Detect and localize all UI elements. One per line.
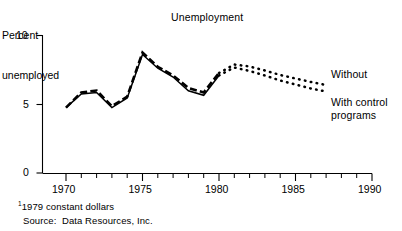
x-tick-label-1970: 1970 bbox=[52, 183, 75, 195]
footnote-body: 1979 constant dollars bbox=[22, 201, 114, 212]
unemployment-chart-figure: Percent unemployed Unemployment bbox=[0, 0, 402, 231]
y-tick-label-10: 10 bbox=[16, 29, 28, 41]
without-solid-path bbox=[66, 53, 219, 108]
series-without-historical bbox=[66, 53, 219, 108]
series-label-without: Without bbox=[331, 68, 367, 80]
footnote: 11979 constant dollars bbox=[18, 200, 114, 212]
x-tick-label-1990: 1990 bbox=[358, 183, 381, 195]
series-with-control-projection bbox=[219, 68, 326, 92]
series-label-with-control-line-1: With control bbox=[331, 96, 388, 108]
x-tick-label-1975: 1975 bbox=[129, 183, 152, 195]
with-control-solid-path bbox=[66, 55, 219, 108]
with-control-dotted-path bbox=[219, 68, 326, 92]
series-label-with-control-line-2: programs bbox=[331, 109, 376, 121]
y-tick-label-5: 5 bbox=[23, 98, 29, 110]
axis-lines bbox=[43, 35, 373, 174]
source-note: Source: Data Resources, Inc. bbox=[23, 215, 153, 226]
y-tick-label-0: 0 bbox=[23, 166, 29, 178]
x-tick-label-1980: 1980 bbox=[205, 183, 228, 195]
x-tick-label-1985: 1985 bbox=[282, 183, 305, 195]
series-with-control-programs-historical bbox=[66, 55, 219, 108]
y-axis-ticks bbox=[37, 36, 43, 174]
